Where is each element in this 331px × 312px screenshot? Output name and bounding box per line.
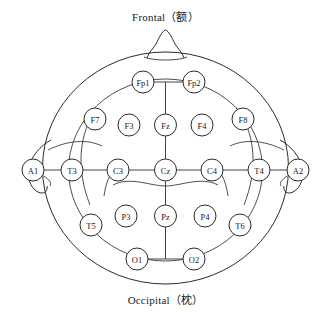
electrode-circle-Fp2[interactable]	[183, 71, 205, 93]
electrode-circle-F8[interactable]	[232, 108, 254, 130]
right-ear-inner	[280, 176, 287, 186]
electrode-node-Fp1[interactable]: Fp1	[132, 71, 154, 93]
electrode-circle-Fp1[interactable]	[132, 71, 154, 93]
electrode-circle-Pz[interactable]	[155, 205, 177, 227]
electrode-circle-A1[interactable]	[22, 159, 44, 181]
electrode-node-P3[interactable]: P3	[115, 205, 137, 227]
electrode-node-O2[interactable]: O2	[183, 248, 205, 270]
electrode-node-Fz[interactable]: Fz	[155, 114, 177, 136]
electrode-circle-P4[interactable]	[194, 205, 216, 227]
electrode-node-F3[interactable]: F3	[118, 114, 140, 136]
electrode-circle-O1[interactable]	[126, 248, 148, 270]
electrode-circle-A2[interactable]	[287, 159, 309, 181]
eeg-electrode-diagram: Frontal（额）	[0, 0, 331, 312]
electrode-circle-C4[interactable]	[201, 159, 223, 181]
electrode-circle-C3[interactable]	[107, 159, 129, 181]
nose-shape	[147, 30, 184, 58]
electrode-node-C4[interactable]: C4	[201, 159, 223, 181]
electrode-circle-Cz[interactable]	[155, 159, 177, 181]
electrode-circle-F7[interactable]	[84, 108, 106, 130]
electrode-node-F4[interactable]: F4	[191, 114, 213, 136]
left-lateral-fissure	[48, 141, 102, 150]
electrode-circle-Fz[interactable]	[155, 114, 177, 136]
electrode-node-T4[interactable]: T4	[248, 159, 270, 181]
electrode-node-O1[interactable]: O1	[126, 248, 148, 270]
electrode-node-T5[interactable]: T5	[80, 214, 102, 236]
electrode-node-T6[interactable]: T6	[229, 214, 251, 236]
electrode-circle-O2[interactable]	[183, 248, 205, 270]
electrode-circle-T3[interactable]	[61, 159, 83, 181]
head-schematic: Fp1 Fp2 F7 F3 Fz F4	[0, 0, 331, 312]
electrode-node-A2[interactable]: A2	[287, 159, 309, 181]
electrode-node-F8[interactable]: F8	[232, 108, 254, 130]
electrode-node-A1[interactable]: A1	[22, 159, 44, 181]
electrode-node-Cz[interactable]: Cz	[155, 159, 177, 181]
electrode-circle-T5[interactable]	[80, 214, 102, 236]
left-ear-inner	[44, 176, 51, 186]
electrode-circle-P3[interactable]	[115, 205, 137, 227]
electrode-node-P4[interactable]: P4	[194, 205, 216, 227]
electrode-node-T3[interactable]: T3	[61, 159, 83, 181]
electrode-node-Pz[interactable]: Pz	[155, 205, 177, 227]
nose-base-line	[144, 57, 187, 60]
electrode-circle-F3[interactable]	[118, 114, 140, 136]
electrode-node-F7[interactable]: F7	[84, 108, 106, 130]
occipital-label: Occipital（枕）	[0, 291, 331, 307]
electrode-circle-T6[interactable]	[229, 214, 251, 236]
right-lateral-fissure	[230, 141, 284, 150]
electrode-circle-F4[interactable]	[191, 114, 213, 136]
electrode-node-C3[interactable]: C3	[107, 159, 129, 181]
electrode-node-Fp2[interactable]: Fp2	[183, 71, 205, 93]
electrode-circle-T4[interactable]	[248, 159, 270, 181]
